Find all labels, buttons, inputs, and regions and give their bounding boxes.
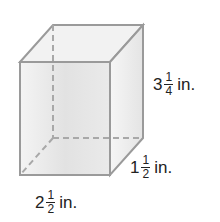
width-fraction: 1 2 bbox=[46, 190, 55, 215]
depth-fraction: 1 2 bbox=[141, 155, 150, 180]
height-fraction: 1 4 bbox=[164, 72, 173, 97]
height-label: 3 1 4 in. bbox=[153, 72, 195, 97]
depth-label: 1 1 2 in. bbox=[130, 155, 172, 180]
width-label: 2 1 2 in. bbox=[35, 190, 77, 215]
front-face bbox=[20, 62, 110, 175]
prism-drawing bbox=[0, 0, 220, 222]
prism-diagram: 3 1 4 in. 1 1 2 in. 2 1 2 in. bbox=[0, 0, 220, 222]
